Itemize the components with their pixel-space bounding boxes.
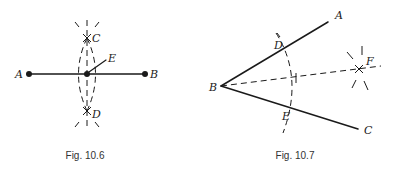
arc-tick-f [347,52,353,59]
label-e: E [107,52,116,65]
point-a [26,71,32,77]
label-d: D [91,108,101,121]
arc-tick [75,22,79,27]
pointer-e [89,60,106,72]
angle-bisector-bf [221,66,381,86]
figure-10-6: A B C D E Fig. 10.6 [14,20,158,161]
caption-fig-10-6: Fig. 10.6 [66,150,105,161]
arc-tick [75,122,79,127]
label-e: E [281,110,290,123]
label-b: B [208,81,217,94]
arc-tick [95,122,99,127]
label-a: A [334,9,343,22]
point-b [142,71,148,77]
diagram-canvas: A B C D E Fig. 10.6 A B C D E F Fig. [0,0,393,169]
label-a: A [14,68,23,81]
caption-fig-10-7: Fig. 10.7 [276,150,315,161]
label-f: F [365,55,374,68]
label-c: C [92,32,101,45]
arc-tick-f [352,80,356,88]
arc-tick-f [364,81,368,90]
point-e [84,71,90,77]
label-d: D [273,39,283,52]
label-c: C [364,124,373,137]
ray-ba [221,22,328,86]
label-b: B [149,68,158,81]
figure-10-7: A B C D E F Fig. 10.7 [208,9,381,161]
arc-tick [95,22,99,27]
